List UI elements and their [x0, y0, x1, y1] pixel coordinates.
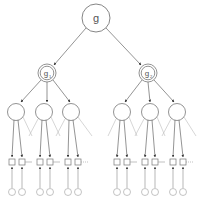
- state-circles: [8, 104, 186, 121]
- g1-label: g: [44, 69, 48, 78]
- tree-diagram: g g 1 g 2: [0, 0, 198, 201]
- edges-to-squares: [12, 120, 183, 157]
- g2-label: g: [145, 69, 149, 78]
- edge-root-g1: [54, 28, 86, 65]
- cross-links: [23, 117, 196, 136]
- input-circles: [9, 189, 187, 196]
- edges-from-inputs: [12, 167, 183, 188]
- node-g1: g 1: [38, 64, 56, 82]
- root-node: g: [82, 4, 110, 32]
- node-g2: g 2: [139, 64, 157, 82]
- root-label: g: [93, 12, 99, 24]
- edges-level3: [21, 80, 174, 102]
- edge-root-g2: [106, 28, 141, 65]
